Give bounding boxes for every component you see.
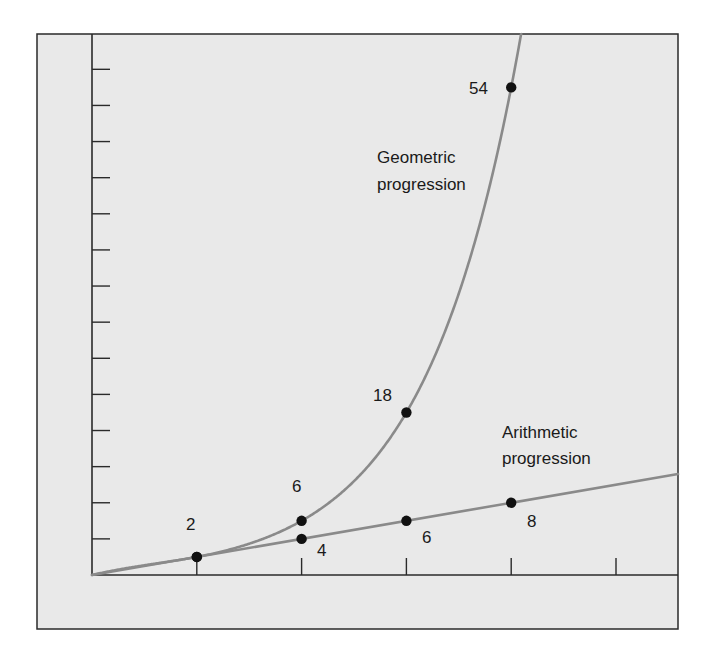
arithmetic-series-label-line1: Arithmetic [502, 423, 578, 442]
arithmetic-series-label-line2: progression [502, 449, 591, 468]
point-label-18: 18 [373, 386, 392, 405]
geometric-series-label-line2: progression [377, 175, 466, 194]
point-label-54: 54 [469, 79, 488, 98]
arithmetic-point [506, 498, 516, 508]
point-label-4: 4 [317, 541, 326, 560]
arithmetic-point [192, 552, 202, 562]
progression-chart: Geometric progression Arithmetic progres… [0, 0, 706, 659]
geometric-point [506, 82, 516, 92]
point-label-geo-6: 6 [292, 477, 301, 496]
geometric-point [401, 407, 411, 417]
point-label-2: 2 [186, 515, 195, 534]
geometric-series-label-line1: Geometric [377, 148, 456, 167]
point-label-8: 8 [527, 512, 536, 531]
point-label-arith-6: 6 [422, 528, 431, 547]
arithmetic-point [296, 534, 306, 544]
chart-frame [37, 34, 678, 629]
arithmetic-point [401, 516, 411, 526]
geometric-point [296, 516, 306, 526]
